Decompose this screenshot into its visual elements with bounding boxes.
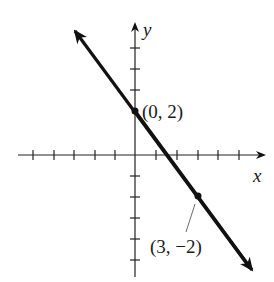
coordinate-graph: y x (0, 2) (3, −2) (0, 0, 274, 282)
point-label-3-neg2: (3, −2) (150, 236, 202, 258)
line-graph (75, 31, 252, 270)
x-axis-label: x (252, 165, 262, 186)
point-3-neg2 (195, 193, 202, 200)
label-leader-line (186, 204, 195, 232)
point-label-0-2: (0, 2) (142, 101, 183, 123)
y-axis (130, 24, 140, 277)
x-axis (18, 150, 264, 160)
y-axis-label: y (141, 19, 152, 40)
point-0-2 (132, 108, 139, 115)
